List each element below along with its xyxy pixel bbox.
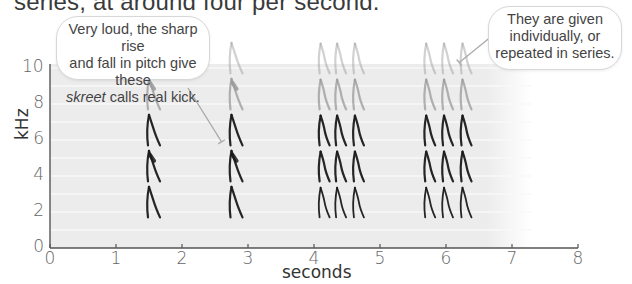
y-axis-label: kHz [12,108,32,140]
y-tick-label: 10 [22,56,42,76]
y-tick-label: 2 [24,200,44,220]
callout-series-line-3: repeated in series. [489,45,621,62]
callout-series: They are given individually, or repeated… [488,6,622,70]
callout-loud-line-1: Very loud, the sharp rise [57,21,209,55]
x-tick-label: 1 [106,248,126,268]
x-tick-label: 8 [568,248,588,268]
plot-background-fade [486,64,532,248]
x-tick-label: 0 [40,248,60,268]
callout-series-line-1: They are given [489,11,621,28]
callout-loud-calls: Very loud, the sharp rise and fall in pi… [56,16,210,80]
callout-loud-line-3: skreet calls real kick. [57,89,209,106]
x-tick-label: 7 [502,248,522,268]
x-tick-label: 2 [172,248,192,268]
callout-loud-line-2: and fall in pitch give these [57,55,209,89]
x-tick-label: 5 [370,248,390,268]
callout-loud-tail: calls real kick. [106,89,200,105]
x-axis-label: seconds [282,262,352,282]
y-tick-label: 4 [24,164,44,184]
x-tick-label: 3 [238,248,258,268]
x-tick-label: 6 [436,248,456,268]
callout-series-line-2: individually, or [489,28,621,45]
callout-italic-word: skreet [66,89,106,105]
